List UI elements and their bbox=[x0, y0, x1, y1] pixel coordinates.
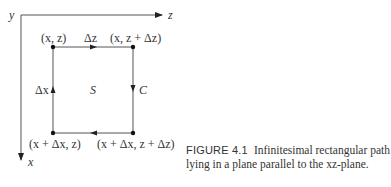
edge-label-delta-x: Δx bbox=[35, 84, 49, 96]
figure-4-1: y z x (x, z) (x, z + Δz) (x + Δx, z) (x … bbox=[0, 0, 391, 187]
arrow-left-icon bbox=[90, 131, 97, 136]
corner-label-top-right: (x, z + Δz) bbox=[110, 32, 161, 44]
arrow-down-icon bbox=[131, 85, 136, 92]
corner-label-bottom-right: (x + Δx, z + Δz) bbox=[97, 138, 175, 150]
arrow-right-icon bbox=[90, 45, 97, 50]
corner-dot bbox=[131, 45, 135, 49]
edge-label-delta-z: Δz bbox=[84, 32, 97, 44]
arrow-up-icon bbox=[51, 86, 56, 93]
surface-label-s: S bbox=[90, 84, 96, 96]
edge-label-contour-c: C bbox=[139, 84, 147, 96]
corner-dot bbox=[51, 45, 55, 49]
y-axis-label: y bbox=[9, 9, 14, 21]
figure-caption: FIGURE 4.1Infinitesimal rectangular path… bbox=[186, 143, 391, 171]
figure-number: FIGURE 4.1 bbox=[186, 144, 248, 156]
x-axis-label: x bbox=[28, 156, 33, 168]
z-axis-label: z bbox=[168, 9, 173, 21]
corner-dot bbox=[131, 131, 135, 135]
corner-dot bbox=[51, 131, 55, 135]
corner-label-top-left: (x, z) bbox=[41, 32, 66, 44]
corner-label-bottom-left: (x + Δx, z) bbox=[29, 138, 81, 150]
